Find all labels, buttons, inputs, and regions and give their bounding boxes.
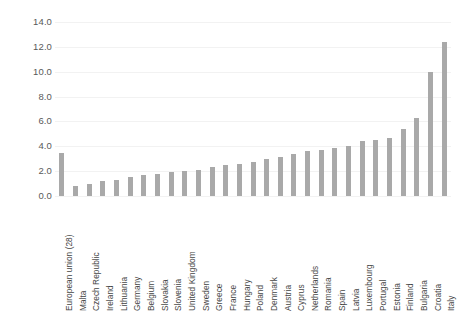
x-axis-tick-label: Bulgaria xyxy=(420,280,428,311)
y-axis-tick-label: 0.0 xyxy=(6,191,52,201)
x-axis-tick-label: Slovakia xyxy=(161,279,169,311)
bar xyxy=(141,175,146,196)
bar xyxy=(291,154,296,196)
bar xyxy=(87,184,92,196)
bar xyxy=(332,148,337,196)
x-axis-tick-label: Finland xyxy=(406,283,414,311)
x-axis-tick-label: Malta xyxy=(79,290,87,311)
x-axis-tick-label: France xyxy=(229,285,237,311)
x-axis-tick-label: Luxembourg xyxy=(365,264,373,311)
x-axis-tick-label: Netherlands xyxy=(311,266,319,311)
x-axis-tick-label: Portugal xyxy=(379,280,387,311)
bar xyxy=(401,129,406,196)
bar xyxy=(155,174,160,196)
bar xyxy=(373,140,378,196)
bar xyxy=(442,42,447,196)
y-axis-tick-label: 6.0 xyxy=(6,116,52,126)
bar xyxy=(319,150,324,196)
x-axis-labels: European union (28)MaltaCzech RepublicIr… xyxy=(55,198,451,313)
bar-series xyxy=(55,22,451,196)
bar xyxy=(414,118,419,196)
x-axis-tick-label: Lithuania xyxy=(120,277,128,311)
bar xyxy=(169,172,174,196)
bar xyxy=(264,159,269,196)
y-axis-tick-label: 10.0 xyxy=(6,67,52,77)
x-axis-tick-label: Slovenia xyxy=(174,279,182,311)
x-axis-tick-label: United Kingdom xyxy=(188,251,196,311)
x-axis-tick-label: Greece xyxy=(215,283,223,311)
x-axis-tick-label: Poland xyxy=(256,285,264,311)
x-axis-tick-label: Spain xyxy=(338,290,346,311)
x-axis-tick-label: Denmark xyxy=(270,277,278,311)
bar xyxy=(237,164,242,196)
x-axis-tick-label: Hungary xyxy=(243,279,251,311)
bar xyxy=(305,151,310,196)
gridline xyxy=(55,196,451,197)
x-axis-tick-label: Croatia xyxy=(434,284,442,311)
x-axis-tick-label: European union (28) xyxy=(65,234,73,311)
y-axis: 0.02.04.06.08.010.012.014.0 xyxy=(0,0,52,315)
x-axis-tick-label: Austria xyxy=(284,285,292,311)
x-axis-tick-label: Germany xyxy=(133,277,141,311)
x-axis-tick-label: Belgium xyxy=(147,281,155,311)
bar xyxy=(223,165,228,196)
bar-chart: 0.02.04.06.08.010.012.014.0 European uni… xyxy=(0,0,458,315)
y-axis-tick-label: 14.0 xyxy=(6,17,52,27)
bar xyxy=(73,186,78,196)
bar xyxy=(182,171,187,196)
bar xyxy=(210,167,215,196)
bar xyxy=(100,181,105,196)
bar xyxy=(251,162,256,196)
y-axis-tick-label: 12.0 xyxy=(6,42,52,52)
bar xyxy=(428,72,433,196)
plot-area xyxy=(55,22,451,196)
bar xyxy=(387,138,392,196)
bar xyxy=(128,177,133,196)
bar xyxy=(196,170,201,196)
bar xyxy=(278,157,283,196)
bar xyxy=(59,153,64,197)
x-axis-tick-label: Cyprus xyxy=(297,284,305,311)
x-axis-tick-label: Romania xyxy=(324,277,332,311)
x-axis-tick-label: Italy xyxy=(447,296,455,311)
bar xyxy=(360,141,365,196)
y-axis-tick-label: 2.0 xyxy=(6,166,52,176)
bar xyxy=(346,146,351,196)
x-axis-tick-label: Sweden xyxy=(202,281,210,311)
x-axis-tick-label: Ireland xyxy=(106,285,114,311)
bar xyxy=(114,180,119,196)
x-axis-tick-label: Latvia xyxy=(352,289,360,311)
x-axis-tick-label: Estonia xyxy=(393,283,401,311)
y-axis-tick-label: 8.0 xyxy=(6,92,52,102)
y-axis-tick-label: 4.0 xyxy=(6,141,52,151)
x-axis-tick-label: Czech Republic xyxy=(92,252,100,311)
